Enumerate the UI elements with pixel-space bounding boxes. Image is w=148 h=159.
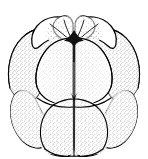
- illustration-canvas: Cleavage-stage embryo (blastomeres): [0, 0, 148, 159]
- embryo-illustration: Cleavage-stage embryo (blastomeres): [0, 0, 148, 159]
